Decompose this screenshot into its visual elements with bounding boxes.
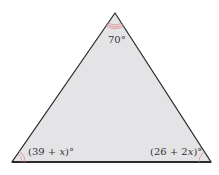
bottom-right-angle-label: (26 + 2x)°	[150, 146, 202, 157]
triangle-diagram: 70° (39 + x)° (26 + 2x)°	[0, 0, 219, 175]
top-angle-label: 70°	[108, 34, 126, 45]
bottom-left-angle-label: (39 + x)°	[28, 146, 74, 157]
